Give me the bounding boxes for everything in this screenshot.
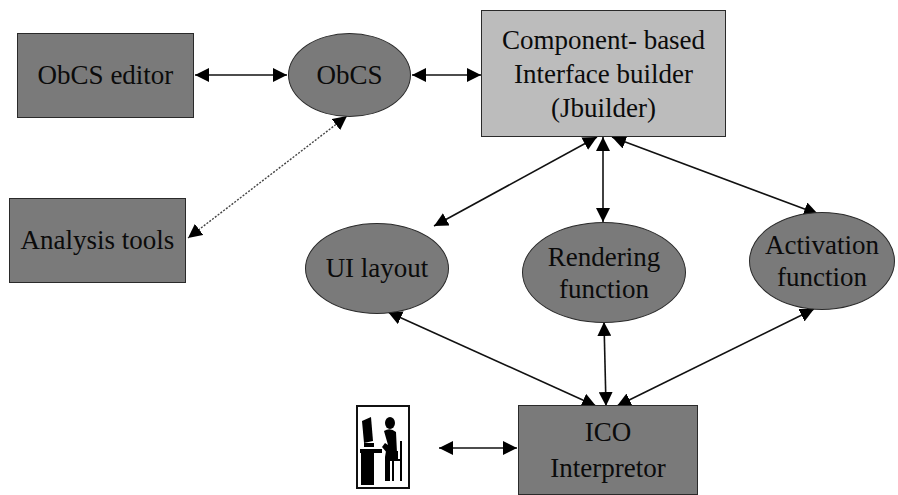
node-user [356, 405, 410, 489]
node-analysis-tools: Analysis tools [9, 198, 186, 283]
edge-interface-builder-ui-layout [434, 137, 597, 226]
node-ico-interpretor-label: ICO Interpretor [550, 414, 665, 486]
node-rendering-function-label: Rendering function [548, 241, 660, 305]
edge-interface-builder-activation [612, 137, 818, 214]
node-interface-builder-label: Component- based Interface builder (Jbui… [502, 23, 705, 125]
node-rendering-function: Rendering function [522, 222, 686, 323]
node-activation-function-label: Activation function [765, 229, 879, 293]
node-obcs-editor: ObCS editor [17, 33, 194, 118]
node-ui-layout: UI layout [305, 223, 449, 314]
node-ui-layout-label: UI layout [326, 254, 429, 283]
node-ico-interpretor: ICO Interpretor [518, 405, 698, 495]
edge-activation-ico [617, 309, 814, 406]
edge-ui-layout-ico [388, 312, 596, 406]
edge-obcs-analysis-tools [188, 116, 347, 238]
edge-rendering-ico [604, 322, 606, 406]
node-obcs-editor-label: ObCS editor [38, 61, 174, 90]
user-at-computer-icon [358, 407, 408, 487]
node-analysis-tools-label: Analysis tools [21, 226, 175, 255]
node-activation-function: Activation function [749, 212, 895, 310]
node-interface-builder: Component- based Interface builder (Jbui… [481, 10, 726, 137]
node-obcs-label: ObCS [316, 61, 382, 90]
node-obcs: ObCS [288, 33, 411, 117]
